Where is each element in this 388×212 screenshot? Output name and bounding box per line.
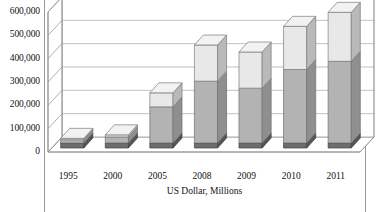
x-tick-label-2011: 2011: [314, 170, 358, 182]
x-tick-label-2000: 2000: [91, 170, 135, 182]
bar-lower-side-2009: [262, 78, 271, 143]
y-tick-label-400000: 400,000: [0, 54, 40, 64]
y-tick-label-500000: 500,000: [0, 30, 40, 40]
bar-lower-front-2000: [105, 137, 128, 143]
chart-root: 0100,000200,000300,000400,000500,000600,…: [0, 0, 388, 212]
x-tick-label-1995: 1995: [46, 170, 90, 182]
bar-lower-front-2008: [194, 81, 217, 143]
bar-upper-front-2011: [328, 12, 351, 61]
bar-base-front-2011: [328, 143, 351, 148]
y-tick-label-0: 0: [0, 147, 40, 157]
x-axis-title: US Dollar, Millions: [44, 186, 365, 196]
x-tick-label-2010: 2010: [269, 170, 313, 182]
bar-base-front-2008: [194, 143, 217, 148]
bar-lower-front-2009: [239, 88, 262, 143]
bar-base-front-1995: [61, 143, 84, 148]
bar-lower-side-2011: [351, 51, 360, 143]
bar-lower-front-1995: [61, 140, 84, 143]
bar-upper-front-2009: [239, 52, 262, 88]
x-axis-tick-labels: 1995200020052008200920102011: [0, 170, 388, 186]
bar-lower-front-2005: [150, 107, 173, 143]
bar-base-front-2009: [239, 143, 262, 148]
bar-upper-front-2010: [284, 26, 307, 69]
bar-upper-front-2008: [194, 45, 217, 81]
bar-lower-front-2011: [328, 61, 351, 143]
bar-base-front-2005: [150, 143, 173, 148]
bar-lower-side-2010: [307, 60, 316, 144]
y-tick-label-600000: 600,000: [0, 7, 40, 17]
x-tick-label-2009: 2009: [225, 170, 269, 182]
x-tick-label-2008: 2008: [180, 170, 224, 182]
x-tick-label-2005: 2005: [135, 170, 179, 182]
bar-base-front-2000: [105, 143, 128, 148]
y-tick-label-200000: 200,000: [0, 100, 40, 110]
bar-base-front-2010: [284, 143, 307, 148]
y-tick-label-300000: 300,000: [0, 77, 40, 87]
bar-lower-side-2008: [218, 71, 227, 143]
bar-upper-front-2005: [150, 93, 173, 107]
y-tick-label-100000: 100,000: [0, 124, 40, 134]
bar-lower-front-2010: [284, 70, 307, 144]
